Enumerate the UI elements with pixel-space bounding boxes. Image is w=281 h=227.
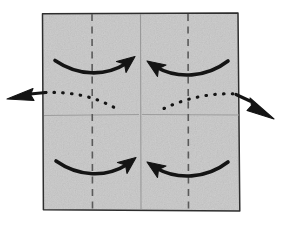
center-crease-vertical (141, 14, 142, 209)
origami-diagram-canvas (0, 0, 281, 227)
center-crease-horizontal-right (142, 115, 239, 116)
origami-diagram: A square sheet of gray textured paper wi… (0, 0, 281, 227)
pull-path-left-connector (30, 93, 46, 95)
